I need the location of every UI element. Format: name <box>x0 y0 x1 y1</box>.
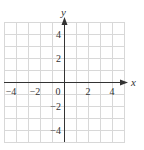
y-axis-arrow-icon <box>62 17 68 25</box>
y-tick-label: −4 <box>50 125 61 136</box>
coordinate-grid-chart: x y −4 −2 0 2 4 4 2 −2 −4 <box>0 0 144 150</box>
y-tick-label: 4 <box>56 29 61 40</box>
x-tick-label: 0 <box>56 86 61 97</box>
y-tick-label: 2 <box>56 53 61 64</box>
x-tick-label: −2 <box>30 86 41 97</box>
y-axis-label: y <box>60 6 66 18</box>
x-tick-label: 4 <box>110 86 115 97</box>
x-tick-label: −4 <box>6 86 17 97</box>
x-axis-label: x <box>130 76 136 88</box>
axes <box>4 21 124 142</box>
y-tick-label: −2 <box>50 101 61 112</box>
x-tick-labels: −4 −2 0 2 4 <box>6 86 115 97</box>
x-tick-label: 2 <box>86 86 91 97</box>
